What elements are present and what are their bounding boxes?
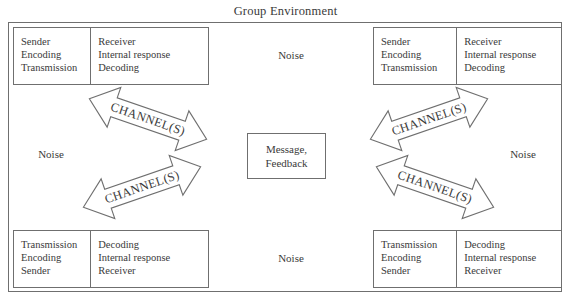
cell-top-left-sender: Sender Encoding Transmission — [14, 28, 91, 84]
noise-label-left: Noise — [13, 148, 89, 160]
diagram-canvas: Group Environment Sender Encoding Transm… — [0, 0, 571, 307]
cell-line: Internal response — [464, 251, 555, 264]
cell-line: Transmission — [381, 238, 450, 251]
cell-line: Receiver — [464, 264, 555, 277]
message-line-2: Feedback — [265, 156, 307, 170]
cell-line: Decoding — [98, 238, 202, 251]
message-line-1: Message, — [266, 142, 307, 156]
cell-line: Sender — [381, 264, 450, 277]
cell-line: Decoding — [464, 61, 555, 74]
cell-line: Receiver — [98, 264, 202, 277]
cell-bottom-right-decoding: Decoding Internal response Receiver — [457, 231, 561, 287]
group-bottom-left: Transmission Encoding Sender Decoding In… — [13, 230, 209, 288]
cell-line: Sender — [21, 264, 84, 277]
cell-bottom-right-transmission: Transmission Encoding Sender — [374, 231, 457, 287]
cell-bottom-left-transmission: Transmission Encoding Sender — [14, 231, 91, 287]
group-top-right: Sender Encoding Transmission Receiver In… — [373, 27, 562, 85]
cell-line: Sender — [21, 35, 84, 48]
message-feedback-box: Message, Feedback — [247, 133, 326, 179]
cell-line: Internal response — [98, 48, 202, 61]
cell-line: Decoding — [464, 238, 555, 251]
noise-label-top: Noise — [219, 49, 363, 61]
cell-top-left-receiver: Receiver Internal response Decoding — [91, 28, 208, 84]
cell-line: Transmission — [381, 61, 450, 74]
cell-line: Encoding — [21, 251, 84, 264]
cell-top-right-sender: Sender Encoding Transmission — [374, 28, 457, 84]
cell-line: Transmission — [21, 238, 84, 251]
cell-line: Internal response — [98, 251, 202, 264]
noise-label-right: Noise — [487, 148, 559, 160]
cell-line: Transmission — [21, 61, 84, 74]
noise-label-bottom: Noise — [219, 252, 363, 264]
cell-top-right-receiver: Receiver Internal response Decoding — [457, 28, 561, 84]
cell-line: Decoding — [98, 61, 202, 74]
cell-line: Internal response — [464, 48, 555, 61]
page-title: Group Environment — [0, 4, 571, 19]
cell-line: Encoding — [21, 48, 84, 61]
cell-line: Sender — [381, 35, 450, 48]
cell-line: Encoding — [381, 251, 450, 264]
cell-line: Receiver — [98, 35, 202, 48]
cell-line: Receiver — [464, 35, 555, 48]
group-top-left: Sender Encoding Transmission Receiver In… — [13, 27, 209, 85]
cell-bottom-left-decoding: Decoding Internal response Receiver — [91, 231, 208, 287]
cell-line: Encoding — [381, 48, 450, 61]
group-bottom-right: Transmission Encoding Sender Decoding In… — [373, 230, 562, 288]
